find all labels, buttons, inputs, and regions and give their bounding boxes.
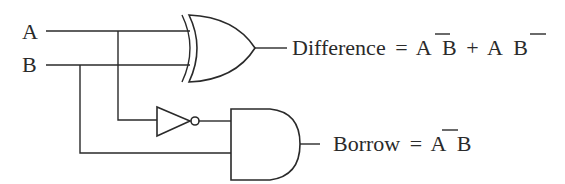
input-label-b: B — [22, 52, 37, 77]
not-triangle — [157, 107, 190, 136]
input-label-a: A — [22, 19, 38, 44]
borrow-term-b: B — [457, 131, 472, 156]
not-gate — [157, 107, 199, 136]
and-gate — [231, 109, 300, 180]
wire-a-to-not — [118, 31, 157, 120]
xor-gate — [182, 15, 255, 82]
difference-expression: Difference = A B + A B — [292, 34, 546, 60]
borrow-name: Borrow — [333, 131, 400, 156]
xor-input-curve — [182, 15, 190, 82]
difference-term1-b: B — [442, 35, 457, 60]
difference-eq: = — [395, 35, 407, 60]
svg-text:Borrow = A B: Borrow = A B — [333, 131, 471, 156]
borrow-eq: = — [410, 131, 422, 156]
svg-text:Difference = A: Difference = A B + A B — [292, 35, 528, 60]
half-subtractor-diagram: A B Difference = A B + A B — [0, 0, 565, 184]
difference-term2-a: A — [487, 35, 503, 60]
borrow-expression: Borrow = A B — [333, 130, 471, 156]
borrow-term-a: A — [430, 131, 446, 156]
difference-term2-b: B — [513, 35, 528, 60]
difference-term1-a: A — [416, 35, 432, 60]
difference-name: Difference — [292, 35, 386, 60]
xor-body — [189, 15, 255, 82]
not-bubble — [191, 117, 199, 125]
difference-plus: + — [466, 35, 478, 60]
